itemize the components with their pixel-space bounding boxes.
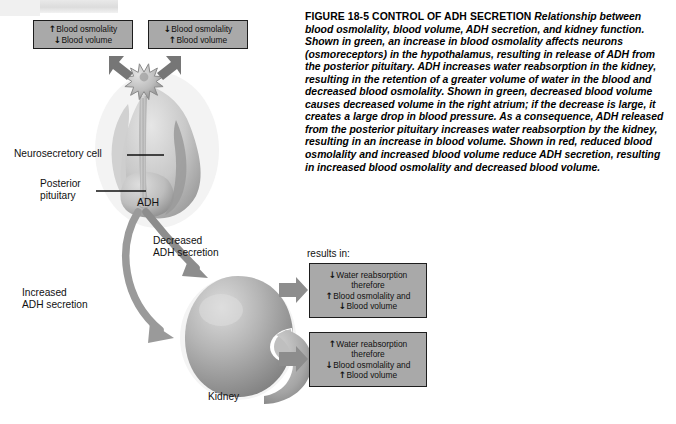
result-box-decreased-adh: ↓Water reabsorption therefore ↑Blood osm…: [309, 263, 427, 318]
result-text: therefore: [351, 349, 385, 359]
stimulus-line: ↓Blood volume: [37, 35, 129, 45]
figure-18-5: FIGURE 18-5 CONTROL OF ADH SECRETION Rel…: [0, 0, 676, 424]
label-adh: ADH: [137, 196, 159, 208]
stimulus-text: Blood osmolality: [171, 24, 232, 34]
stimulus-line: ↑Blood volume: [152, 35, 244, 45]
result-line: ↑Blood osmolality and: [313, 291, 423, 301]
label-increased-line2: ADH secretion: [22, 299, 88, 311]
label-increased-adh-secretion: Increased ADH secretion: [22, 287, 88, 311]
label-posterior-pituitary-line1: Posterior: [40, 178, 81, 190]
result-text: Blood osmolality and: [333, 291, 410, 301]
result-text: Water reabsorption: [336, 270, 407, 280]
result-box-increased-adh: ↑Water reabsorption therefore ↓Blood osm…: [309, 332, 427, 387]
stimulus-box-decreased-osmolality: ↓Blood osmolality ↑Blood volume: [148, 20, 248, 49]
stimulus-text: Blood volume: [176, 35, 227, 45]
label-increased-line1: Increased: [22, 287, 88, 299]
label-neurosecretory-cell: Neurosecretory cell: [14, 148, 102, 160]
stimulus-box-increased-osmolality: ↑Blood osmolality ↓Blood volume: [33, 20, 133, 49]
figure-caption: FIGURE 18-5 CONTROL OF ADH SECRETION Rel…: [305, 11, 667, 174]
arrow-up-icon: ↑: [326, 291, 334, 301]
result-line: ↑Blood volume: [313, 370, 423, 380]
stimulus-line: ↑Blood osmolality: [37, 24, 129, 34]
stimulus-text: Blood osmolality: [56, 24, 117, 34]
label-posterior-pituitary: Posterior pituitary: [40, 178, 81, 202]
label-decreased-line1: Decreased: [153, 235, 219, 247]
result-line: ↓Blood volume: [313, 301, 423, 311]
label-decreased-line2: ADH secretion: [153, 247, 219, 259]
result-line: ↓Blood osmolality and: [313, 360, 423, 370]
stimulus-line: ↓Blood osmolality: [152, 24, 244, 34]
result-text: Blood volume: [346, 370, 397, 380]
result-arrow-top: [279, 277, 308, 303]
results-header: results in:: [307, 248, 350, 260]
caption-heading: FIGURE 18-5 CONTROL OF ADH SECRETION: [305, 11, 531, 22]
result-line: ↑Water reabsorption: [313, 339, 423, 349]
label-kidney: Kidney: [208, 391, 239, 403]
result-text: therefore: [351, 280, 385, 290]
stimulus-text: Blood volume: [61, 35, 112, 45]
label-posterior-pituitary-line2: pituitary: [40, 190, 81, 202]
arrow-down-icon: ↓: [326, 360, 334, 370]
result-text: Blood volume: [346, 301, 397, 311]
result-line: therefore: [313, 280, 423, 290]
label-decreased-adh-secretion: Decreased ADH secretion: [153, 235, 219, 259]
stimulus-arrow-left: [109, 56, 133, 80]
result-text: Water reabsorption: [336, 339, 407, 349]
result-line: therefore: [313, 349, 423, 359]
result-text: Blood osmolality and: [333, 360, 410, 370]
result-line: ↓Water reabsorption: [313, 270, 423, 280]
caption-body: Relationship between blood osmolality, b…: [305, 11, 663, 173]
